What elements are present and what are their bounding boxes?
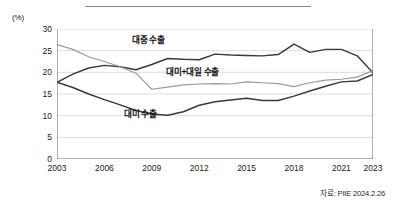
x-tick-label: 2003 — [41, 163, 73, 173]
y-tick-label: 10 — [30, 111, 52, 121]
x-tick-label: 2012 — [183, 163, 215, 173]
series-annotation-us: 대미 수출 — [124, 107, 157, 119]
y-axis-unit-label: (%) — [12, 13, 24, 22]
series-paths-group — [57, 44, 373, 115]
x-tick-label: 2018 — [278, 163, 310, 173]
x-tick-label: 2009 — [136, 163, 168, 173]
source-note: 자료: PIIE 2024.2.26 — [320, 187, 385, 198]
series-annotation-us-japan: 대미+대일 수출 — [166, 65, 219, 77]
y-tick-label: 25 — [30, 46, 52, 56]
y-tick-label: 20 — [30, 67, 52, 77]
x-tick-label: 2021 — [325, 163, 357, 173]
y-tick-label: 5 — [30, 132, 52, 142]
y-tick-label: 15 — [30, 89, 52, 99]
top-divider-rule — [85, 6, 311, 7]
y-tick-label: 30 — [30, 24, 52, 34]
series-annotation-china: 대중 수출 — [132, 33, 165, 45]
x-tick-label: 2023 — [357, 163, 389, 173]
line-chart-svg — [57, 29, 373, 159]
chart-container: (%) 051015202530 20032006200920122015201… — [0, 0, 395, 206]
x-tick-label: 2006 — [88, 163, 120, 173]
plot-area — [57, 29, 373, 159]
x-tick-label: 2015 — [231, 163, 263, 173]
gridlines-group — [57, 29, 373, 159]
